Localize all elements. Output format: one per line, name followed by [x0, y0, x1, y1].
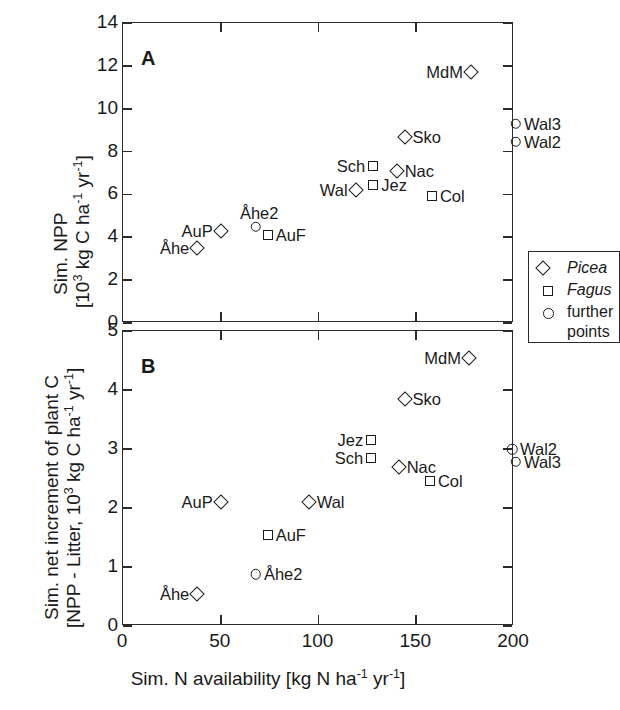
data-point-label: Jez [338, 431, 364, 450]
square-marker-icon [427, 191, 437, 201]
panel-a-y-axis-title-line2: [103 kg C ha-1 yr-1] [72, 155, 94, 308]
data-point-label: Sch [337, 156, 365, 175]
y-tick-right [503, 279, 512, 281]
diamond-marker-icon [391, 459, 407, 475]
y-tick [123, 194, 132, 196]
diamond-marker-icon [397, 391, 413, 407]
y-tick [123, 65, 132, 67]
y-tick-label: 4 [107, 225, 118, 247]
panel-b-label: B [141, 355, 155, 378]
data-point-label: Nac [407, 457, 436, 476]
y-tick-right [503, 236, 512, 238]
y-tick-right [503, 151, 512, 153]
circle-marker-icon [251, 221, 262, 232]
data-point-label: Sko [413, 389, 441, 408]
legend-label-further: further [567, 302, 613, 322]
diamond-marker-icon [535, 260, 551, 276]
x-tick-label: 200 [497, 630, 529, 652]
data-point-label: AuP [182, 221, 213, 240]
y-tick-label: 10 [97, 97, 118, 119]
data-point-label: MdM [424, 348, 461, 367]
y-tick-right [503, 22, 512, 24]
data-point-label: Åhe2 [240, 203, 279, 222]
y-tick [123, 236, 132, 238]
diamond-marker-icon [348, 182, 364, 198]
x-tick [415, 615, 417, 624]
circle-marker-icon [507, 444, 518, 455]
panel-b-y-tick-labels: 012345 [88, 330, 118, 625]
x-tick [220, 312, 222, 321]
y-tick-right [503, 108, 512, 110]
data-point-label: AuF [276, 226, 306, 245]
x-tick-label: 0 [117, 630, 128, 652]
panel-a-y-axis-title-line1: Sim. NPP [50, 213, 72, 295]
legend-row-further-points: further points [529, 302, 619, 342]
y-tick-right [503, 625, 512, 627]
data-point-label: Sko [413, 127, 441, 146]
x-tick-top [415, 331, 417, 340]
data-point-label: Jez [381, 175, 407, 194]
circle-marker-icon [543, 308, 554, 319]
diamond-marker-icon [397, 129, 413, 145]
data-point-label: Col [438, 472, 463, 491]
legend-label-points: points [567, 322, 610, 342]
panel-b-plot-area: B ÅheAuPWalNacSkoMdMAuFJezSchColÅhe2Wal2… [122, 330, 513, 625]
x-tick-top [220, 331, 222, 340]
diamond-marker-icon [190, 586, 206, 602]
y-tick [123, 389, 132, 391]
y-tick [123, 151, 132, 153]
legend-label-picea: Picea [567, 258, 607, 278]
x-tick [318, 615, 320, 624]
circle-marker-icon [511, 118, 522, 129]
x-tick-top [318, 331, 320, 340]
y-tick-label: 1 [107, 555, 118, 577]
y-tick [123, 507, 132, 509]
square-marker-icon [543, 286, 553, 296]
y-tick-label: 12 [97, 54, 118, 76]
data-point-label: Wal3 [524, 114, 561, 133]
y-tick-label: 3 [107, 437, 118, 459]
square-marker-icon [263, 530, 273, 540]
y-tick [123, 330, 132, 332]
data-point-label: Wal3 [524, 452, 561, 471]
y-tick-label: 4 [107, 378, 118, 400]
square-marker-icon [368, 161, 378, 171]
circle-marker-icon [511, 457, 522, 468]
y-tick-label: 5 [107, 319, 118, 341]
data-point-label: MdM [426, 63, 463, 82]
data-point-label: Åhe [160, 584, 189, 603]
x-axis-title: Sim. N availability [kg N ha-1 yr-1] [131, 668, 406, 690]
x-tick-top [415, 23, 417, 32]
legend-label-fagus: Fagus [567, 280, 611, 300]
square-marker-icon [366, 435, 376, 445]
y-tick-right [503, 389, 512, 391]
x-tick [220, 615, 222, 624]
panel-b-y-axis-title-line1: Sim. net increment of plant C [41, 375, 63, 620]
y-tick-label: 8 [107, 140, 118, 162]
y-tick-right [503, 322, 512, 324]
data-point-label: Col [440, 186, 465, 205]
y-tick [123, 108, 132, 110]
y-tick [123, 22, 132, 24]
x-tick [318, 312, 320, 321]
y-tick-right [503, 566, 512, 568]
data-point-label: Wal [320, 181, 348, 200]
square-marker-icon [366, 453, 376, 463]
square-marker-icon [263, 230, 273, 240]
x-tick-label: 100 [302, 630, 334, 652]
y-tick [123, 566, 132, 568]
x-tick-label: 150 [399, 630, 431, 652]
y-tick-label: 2 [107, 268, 118, 290]
data-point-label: AuP [182, 493, 213, 512]
y-tick-label: 2 [107, 496, 118, 518]
diamond-marker-icon [213, 494, 229, 510]
y-tick [123, 322, 132, 324]
y-tick-right [503, 330, 512, 332]
panel-b-y-axis-title-line2: [NPP - Litter, 103 kg C ha-1 yr-1] [63, 368, 85, 628]
x-tick-label: 50 [209, 630, 230, 652]
square-marker-icon [368, 180, 378, 190]
diamond-marker-icon [463, 65, 479, 81]
y-tick-right [503, 194, 512, 196]
data-point-label: Åhe2 [264, 565, 303, 584]
